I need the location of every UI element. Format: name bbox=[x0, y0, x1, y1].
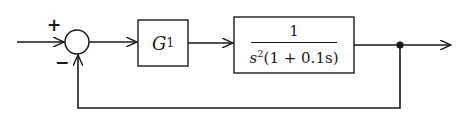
plus-sign: + bbox=[47, 15, 61, 35]
fraction-bar bbox=[251, 42, 337, 43]
plant-transfer-function: 1 s2(1 + 0.1s) bbox=[234, 17, 354, 73]
controller-name: G bbox=[152, 33, 166, 54]
controller-label: G1 bbox=[138, 20, 188, 66]
minus-sign: − bbox=[55, 52, 69, 72]
plant-denominator: s2(1 + 0.1s) bbox=[250, 45, 339, 67]
summing-junction bbox=[65, 30, 89, 54]
controller-subscript: 1 bbox=[166, 36, 174, 50]
diagram-canvas bbox=[0, 0, 465, 120]
denominator-rest: (1 + 0.1s) bbox=[264, 49, 339, 67]
plant-numerator: 1 bbox=[289, 23, 299, 39]
